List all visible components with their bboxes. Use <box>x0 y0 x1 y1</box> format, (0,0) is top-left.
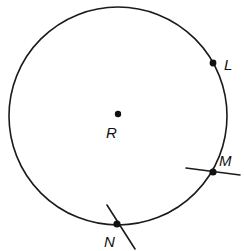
point-dot-n <box>113 220 120 227</box>
circle-diagram-svg: R L M N <box>0 0 244 251</box>
geometry-figure: R L M N <box>0 0 244 251</box>
point-dot-l <box>210 60 217 67</box>
point-dot-m <box>209 168 216 175</box>
label-r: R <box>106 124 117 141</box>
label-l: L <box>224 56 232 73</box>
center-point-dot-r <box>115 111 121 117</box>
label-n: N <box>104 233 115 250</box>
label-m: M <box>219 152 232 169</box>
